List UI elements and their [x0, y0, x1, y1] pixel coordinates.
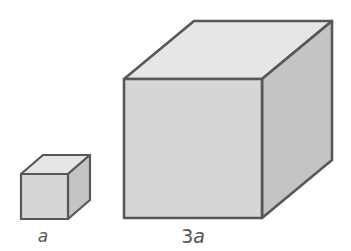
small-cube-side-label: a	[38, 228, 48, 245]
front-face	[21, 174, 68, 219]
large-cube	[124, 21, 332, 218]
cube-diagram	[0, 0, 351, 251]
large-cube-side-label: 3a	[181, 227, 205, 246]
small-cube	[21, 155, 90, 219]
label-variable: a	[193, 225, 205, 247]
label-coefficient: 3	[181, 225, 193, 247]
label-variable: a	[38, 226, 48, 246]
front-face	[124, 79, 262, 218]
